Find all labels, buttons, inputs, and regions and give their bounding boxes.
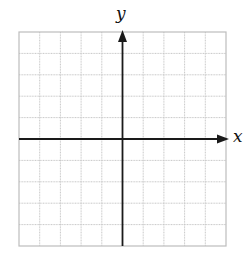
y-axis-label: y xyxy=(116,5,126,22)
coordinate-plane xyxy=(0,0,248,260)
x-axis-arrow-icon xyxy=(217,135,229,144)
x-axis-label: x xyxy=(233,128,243,145)
